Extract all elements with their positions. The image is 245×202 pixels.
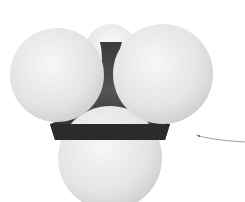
pointer-dot (198, 135, 200, 137)
atom-right (113, 24, 213, 124)
atom-left (10, 28, 104, 122)
pointer-line (196, 135, 245, 142)
molecule-model (0, 0, 245, 202)
atom-central-band (50, 124, 170, 140)
